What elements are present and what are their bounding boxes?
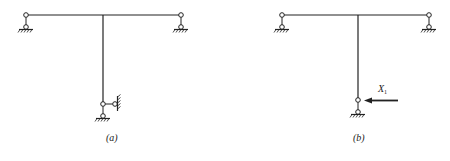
structure-diagrams: (a) X1 (b) xyxy=(0,0,450,161)
pin-support-base-b xyxy=(350,110,365,118)
pin-support-left-a xyxy=(18,25,33,33)
pin-support-left-b xyxy=(274,25,289,33)
pin-support-right-a xyxy=(173,25,188,33)
hinge-left-a xyxy=(24,13,29,18)
lateral-link-a xyxy=(105,95,120,112)
pin-support-right-b xyxy=(421,25,436,33)
diagram-a: (a) xyxy=(18,13,188,144)
caption-b: (b) xyxy=(353,132,365,144)
hinge-right-b xyxy=(427,13,432,18)
hinge-base-a xyxy=(101,102,106,107)
caption-a: (a) xyxy=(106,132,118,144)
hinge-left-b xyxy=(280,13,285,18)
force-arrow-x1 xyxy=(364,98,398,104)
force-label: X1 xyxy=(377,83,387,95)
hinge-base-b xyxy=(356,98,361,103)
pin-support-base-a xyxy=(95,114,110,122)
diagram-b: X1 (b) xyxy=(274,13,436,144)
hinge-right-a xyxy=(179,13,184,18)
